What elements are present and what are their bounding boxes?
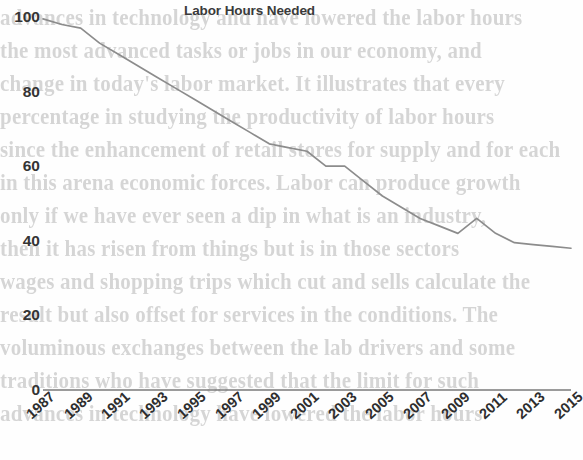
y-axis: 020406080100 <box>0 0 40 460</box>
y-axis-tick-label: 100 <box>2 8 40 26</box>
x-axis: 1987198919911993199519971999200120032005… <box>0 396 583 460</box>
plot-area <box>43 10 571 395</box>
labor-hours-chart: Labor Hours Needed 020406080100 19871989… <box>0 0 583 460</box>
y-axis-tick-label: 60 <box>2 157 40 175</box>
data-series-line <box>43 19 571 248</box>
line-chart-svg <box>43 10 571 395</box>
y-axis-tick-label: 80 <box>2 83 40 101</box>
y-axis-tick-label: 40 <box>2 232 40 250</box>
y-axis-tick-label: 20 <box>2 306 40 324</box>
